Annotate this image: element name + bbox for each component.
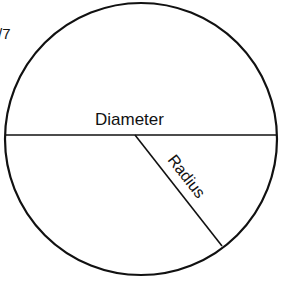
circle-outline	[5, 3, 277, 275]
radius-label: Radius	[165, 151, 209, 201]
circle-diagram: /7 Diameter Radius	[0, 0, 288, 282]
diameter-label: Diameter	[95, 110, 164, 129]
fragment-label: /7	[0, 25, 11, 42]
